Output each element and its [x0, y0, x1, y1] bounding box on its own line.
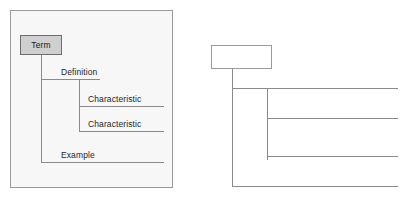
blank-subtrunk-vertical-line	[267, 88, 268, 160]
node-box-blank-root[interactable]	[211, 45, 272, 69]
branch-label-example: Example	[61, 150, 95, 160]
branch-label-definition: Definition	[61, 67, 97, 77]
branch-label-characteristic-2: Characteristic	[88, 119, 141, 129]
trunk-vertical-line	[41, 55, 42, 162]
branch-label-characteristic-1: Characteristic	[88, 94, 141, 104]
blank-trunk-vertical-line	[232, 69, 233, 186]
branch-line-characteristic-2	[79, 131, 164, 132]
blank-branch-line-1	[232, 88, 398, 89]
branch-line-definition	[41, 79, 100, 80]
node-label-term: Term	[31, 40, 50, 50]
branch-line-characteristic-1	[79, 106, 164, 107]
node-box-term[interactable]: Term	[20, 35, 62, 55]
subtrunk-vertical-line	[79, 79, 80, 131]
blank-branch-line-4	[232, 186, 398, 187]
diagram-canvas: Term Definition Characteristic Character…	[0, 0, 403, 201]
branch-line-example	[41, 162, 164, 163]
blank-branch-line-3	[267, 156, 398, 157]
blank-branch-line-2	[267, 118, 398, 119]
